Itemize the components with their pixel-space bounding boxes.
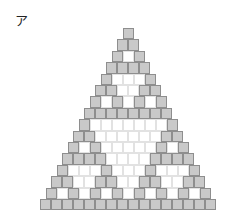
filled-cell	[84, 199, 95, 210]
filled-cell	[51, 199, 62, 210]
filled-cell	[178, 142, 189, 153]
empty-cell	[101, 142, 112, 153]
empty-cell	[134, 142, 145, 153]
empty-cell	[101, 188, 112, 199]
empty-cell	[145, 119, 156, 130]
empty-cell	[123, 142, 134, 153]
filled-cell	[95, 176, 106, 187]
filled-cell	[62, 153, 73, 164]
empty-cell	[90, 119, 101, 130]
filled-cell	[46, 188, 57, 199]
filled-cell	[200, 188, 211, 199]
filled-cell	[112, 51, 123, 62]
filled-cell	[161, 153, 172, 164]
filled-cell	[150, 176, 161, 187]
filled-cell	[101, 165, 112, 176]
empty-cell	[156, 119, 167, 130]
filled-cell	[161, 131, 172, 142]
empty-cell	[79, 165, 90, 176]
empty-cell	[106, 131, 117, 142]
empty-cell	[90, 165, 101, 176]
filled-cell	[79, 119, 90, 130]
empty-cell	[150, 131, 161, 142]
filled-cell	[189, 165, 200, 176]
filled-cell	[84, 131, 95, 142]
filled-cell	[62, 199, 73, 210]
filled-cell	[51, 176, 62, 187]
filled-cell	[117, 62, 128, 73]
empty-cell	[84, 176, 95, 187]
filled-cell	[150, 153, 161, 164]
filled-cell	[73, 153, 84, 164]
filled-cell	[106, 176, 117, 187]
filled-cell	[183, 176, 194, 187]
filled-cell	[139, 62, 150, 73]
filled-cell	[128, 108, 139, 119]
filled-cell	[156, 142, 167, 153]
filled-cell	[183, 199, 194, 210]
empty-cell	[112, 119, 123, 130]
filled-cell	[73, 131, 84, 142]
empty-cell	[134, 74, 145, 85]
empty-cell	[117, 131, 128, 142]
empty-cell	[128, 131, 139, 142]
empty-cell	[117, 153, 128, 164]
empty-cell	[123, 74, 134, 85]
empty-cell	[73, 176, 84, 187]
empty-cell	[189, 188, 200, 199]
filled-cell	[139, 176, 150, 187]
empty-cell	[106, 153, 117, 164]
filled-cell	[90, 188, 101, 199]
filled-cell	[112, 188, 123, 199]
empty-cell	[172, 176, 183, 187]
filled-cell	[128, 62, 139, 73]
filled-cell	[172, 199, 183, 210]
empty-cell	[145, 188, 156, 199]
empty-cell	[134, 165, 145, 176]
empty-cell	[128, 153, 139, 164]
filled-cell	[139, 85, 150, 96]
filled-cell	[117, 39, 128, 50]
empty-cell	[101, 119, 112, 130]
filled-cell	[95, 85, 106, 96]
filled-cell	[134, 188, 145, 199]
filled-cell	[161, 199, 172, 210]
filled-cell	[145, 74, 156, 85]
empty-cell	[167, 142, 178, 153]
filled-cell	[106, 199, 117, 210]
filled-cell	[128, 39, 139, 50]
empty-cell	[123, 119, 134, 130]
empty-cell	[156, 165, 167, 176]
filled-cell	[123, 28, 134, 39]
empty-cell	[123, 188, 134, 199]
filled-cell	[62, 176, 73, 187]
empty-cell	[57, 188, 68, 199]
filled-cell	[73, 199, 84, 210]
filled-cell	[150, 108, 161, 119]
sierpinski-triangle	[0, 0, 231, 221]
filled-cell	[106, 62, 117, 73]
filled-cell	[134, 96, 145, 107]
filled-cell	[161, 108, 172, 119]
empty-cell	[117, 176, 128, 187]
filled-cell	[194, 176, 205, 187]
filled-cell	[156, 96, 167, 107]
filled-cell	[134, 51, 145, 62]
filled-cell	[106, 85, 117, 96]
filled-cell	[84, 153, 95, 164]
filled-cell	[84, 108, 95, 119]
filled-cell	[40, 199, 51, 210]
filled-cell	[194, 199, 205, 210]
empty-cell	[79, 188, 90, 199]
empty-cell	[123, 96, 134, 107]
filled-cell	[68, 188, 79, 199]
empty-cell	[101, 96, 112, 107]
empty-cell	[161, 176, 172, 187]
empty-cell	[167, 188, 178, 199]
filled-cell	[139, 108, 150, 119]
empty-cell	[117, 85, 128, 96]
filled-cell	[112, 96, 123, 107]
filled-cell	[95, 199, 106, 210]
filled-cell	[117, 199, 128, 210]
filled-cell	[90, 96, 101, 107]
